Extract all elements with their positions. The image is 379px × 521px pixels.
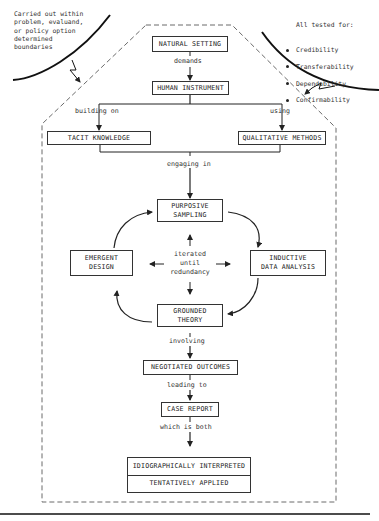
cycle-arc-ida-to-gt <box>228 278 258 314</box>
criteria-title: All tested for: <box>284 21 354 29</box>
cycle-center-label: iterated until redundancy <box>163 250 217 277</box>
edge-label-engaging-in: engaging in <box>167 160 211 168</box>
edge-label-demands: demands <box>174 57 202 65</box>
criteria-item: Transferability <box>284 63 354 71</box>
node-final-outcome: IDIOGRAPHICALLY INTERPRETED TENTATIVELY … <box>127 457 251 493</box>
edge-label-leading-to: leading to <box>167 381 207 389</box>
right-criteria-note: All tested for: Credibility Transferabil… <box>284 13 354 121</box>
criteria-item: Confirmability <box>284 96 354 104</box>
edge-label-using: using <box>270 107 290 115</box>
node-natural-setting: NATURAL SETTING <box>152 36 228 52</box>
node-tentatively-applied: TENTATIVELY APPLIED <box>128 475 250 493</box>
cycle-arc-ed-to-ps <box>114 212 152 248</box>
left-boundary-note: Carried out within problem, evaluand, or… <box>14 10 83 52</box>
criteria-item: Dependability <box>284 80 354 88</box>
node-purposive-sampling: PURPOSIVE SAMPLING <box>157 199 223 222</box>
cycle-arc-gt-to-ed <box>117 291 152 322</box>
left-zigzag-arrow <box>70 60 80 82</box>
node-inductive-data-analysis: INDUCTIVE DATA ANALYSIS <box>250 250 326 276</box>
node-tacit-knowledge: TACIT KNOWLEDGE <box>47 131 151 145</box>
node-human-instrument: HUMAN INSTRUMENT <box>152 81 229 95</box>
edge-label-which-is-both: which is both <box>160 423 212 431</box>
edge-label-building-on: building on <box>75 107 119 115</box>
node-case-report: CASE REPORT <box>161 402 219 417</box>
node-qualitative-methods: QUALITATIVE METHODS <box>238 131 326 145</box>
criteria-item: Credibility <box>284 46 354 54</box>
node-idiographically-interpreted: IDIOGRAPHICALLY INTERPRETED <box>128 458 250 475</box>
node-emergent-design: EMERGENT DESIGN <box>70 250 133 276</box>
edge-label-involving: involving <box>169 337 205 345</box>
node-negotiated-outcomes: NEGOTIATED OUTCOMES <box>143 360 238 375</box>
node-grounded-theory: GROUNDED THEORY <box>157 304 223 327</box>
cycle-arc-ps-to-ida <box>228 212 259 247</box>
